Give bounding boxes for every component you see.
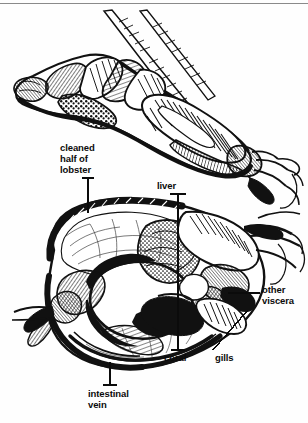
callout-label-cleaned-half: cleaned half of lobster — [60, 142, 95, 175]
callout-label-gills: gills — [215, 352, 234, 363]
callout-label-other-viscera: other viscera — [262, 284, 294, 306]
split-half-lobster-drawing — [12, 198, 305, 368]
cleaned-half-lobster-drawing — [14, 10, 303, 208]
lobster-anatomy-illustration — [0, 0, 308, 423]
figure-page: cleaned half of lobster liver other visc… — [0, 0, 308, 423]
callout-label-intestinal-vein: intestinal vein — [88, 388, 129, 410]
lower-legs — [12, 306, 54, 346]
callout-label-coral: coral — [164, 352, 186, 363]
callout-label-liver: liver — [157, 180, 176, 191]
